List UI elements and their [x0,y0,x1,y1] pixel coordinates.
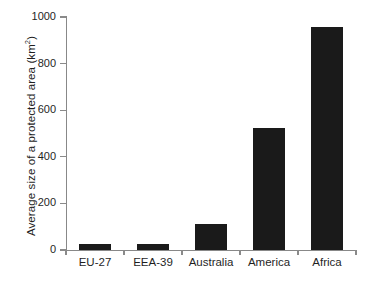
x-axis-tick [181,250,182,255]
bar [195,224,227,250]
x-axis-category-label: EEA-39 [124,256,182,268]
x-axis-category-label: Africa [298,256,356,268]
x-axis-tick [65,250,66,255]
x-axis-category-label: Australia [182,256,240,268]
bar [79,244,111,250]
x-axis-tick [239,250,240,255]
bar [311,27,343,250]
bar [137,244,169,250]
bar-chart: Average size of a protected area (km2) 0… [0,0,365,287]
bars-layer [0,17,365,250]
x-axis-tick [123,250,124,255]
x-axis-tick [297,250,298,255]
x-axis-category-label: EU-27 [66,256,124,268]
x-axis-category-label: America [240,256,298,268]
bar [253,128,285,250]
x-axis-tick [355,250,356,255]
